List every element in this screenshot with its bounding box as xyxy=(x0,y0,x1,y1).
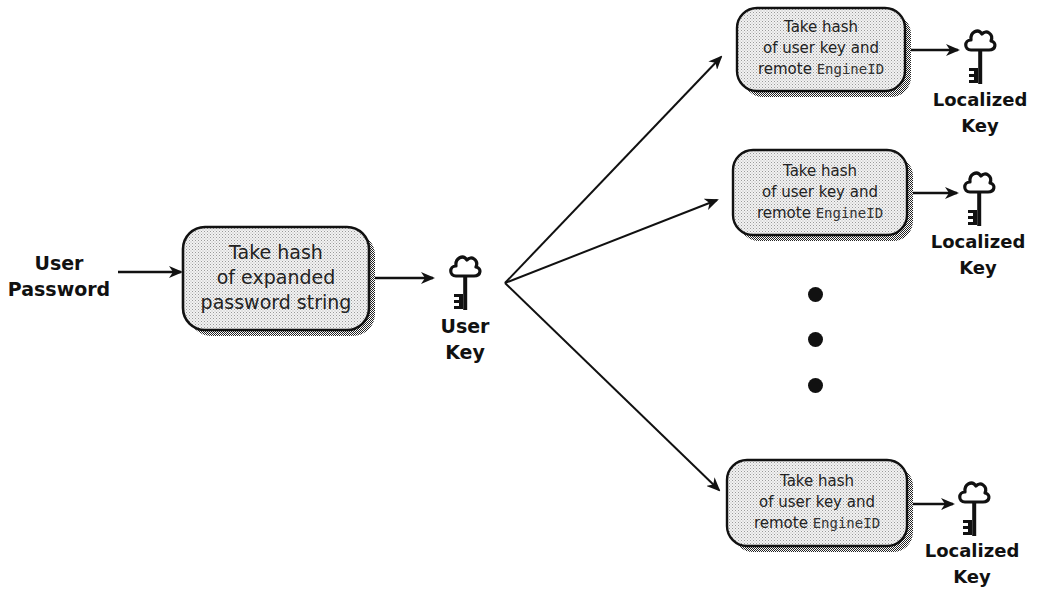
user-key-label: User Key xyxy=(425,313,505,365)
box-line-prefix: remote xyxy=(754,514,813,532)
localize-box-3: Take hash of user key and remote EngineI… xyxy=(727,471,907,534)
localize-box-1: Take hash of user key and remote EngineI… xyxy=(737,17,905,80)
label-line: Password xyxy=(0,276,118,302)
label-line: Localized xyxy=(920,229,1036,255)
box-line: Take hash xyxy=(183,240,369,265)
label-line: User xyxy=(425,313,505,339)
box-line: of user key and xyxy=(733,182,907,203)
key-icon-localized-1 xyxy=(963,24,997,84)
engine-id-code: EngineID xyxy=(816,205,883,221)
label-line: User xyxy=(0,250,118,276)
box-line: password string xyxy=(183,290,369,315)
label-line: Localized xyxy=(914,538,1030,564)
label-line: Localized xyxy=(922,87,1038,113)
main-hash-box: Take hash of expanded password string xyxy=(183,240,369,315)
box-line: of user key and xyxy=(737,38,905,59)
user-password-label: User Password xyxy=(0,250,118,302)
key-icon-user xyxy=(448,250,482,310)
label-line: Key xyxy=(922,113,1038,139)
ellipsis-dot-icon xyxy=(808,332,823,347)
box-line: Take hash xyxy=(733,161,907,182)
localize-box-2: Take hash of user key and remote EngineI… xyxy=(733,161,907,224)
box-line: of expanded xyxy=(183,265,369,290)
box-line: remote EngineID xyxy=(727,513,907,534)
box-line: remote EngineID xyxy=(733,203,907,224)
box-line: remote EngineID xyxy=(737,59,905,80)
label-line: Key xyxy=(425,339,505,365)
engine-id-code: EngineID xyxy=(813,515,880,531)
box-line: of user key and xyxy=(727,492,907,513)
box-line-prefix: remote xyxy=(758,60,817,78)
ellipsis-dot-icon xyxy=(808,378,823,393)
box-line: Take hash xyxy=(727,471,907,492)
localized-key-label-2: Localized Key xyxy=(920,229,1036,281)
box-line-prefix: remote xyxy=(757,204,816,222)
label-line: Key xyxy=(920,255,1036,281)
engine-id-code: EngineID xyxy=(817,61,884,77)
ellipsis-dot-icon xyxy=(808,287,823,302)
label-line: Key xyxy=(914,564,1030,590)
localized-key-label-1: Localized Key xyxy=(922,87,1038,139)
key-icon-localized-3 xyxy=(957,476,991,536)
localized-key-label-3: Localized Key xyxy=(914,538,1030,590)
box-line: Take hash xyxy=(737,17,905,38)
key-icon-localized-2 xyxy=(962,166,996,226)
